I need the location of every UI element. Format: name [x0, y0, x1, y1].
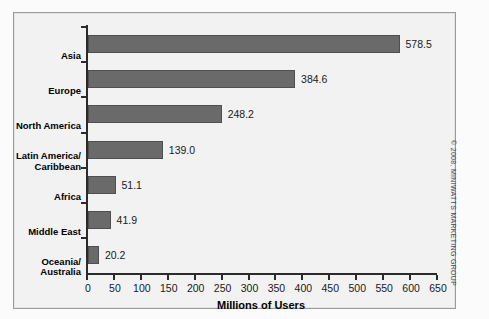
x-axis-tick [140, 275, 142, 280]
category-label-line: North America [16, 121, 81, 132]
category-label: Europe [48, 86, 81, 97]
x-axis-line [86, 273, 437, 275]
y-axis-tick [81, 26, 86, 28]
bar-value-label: 41.9 [117, 211, 137, 229]
x-axis-tick [248, 275, 250, 280]
screenshot-root: AsiaEuropeNorth AmericaLatin America/Car… [0, 0, 489, 319]
bar-latin-america-caribbean [88, 141, 163, 159]
y-axis-tick [81, 237, 86, 239]
category-label-line: Africa [54, 192, 81, 203]
bar-middle-east [88, 211, 111, 229]
copyright-notice: © 2008, MINIWATTS MARKETING GROUP [450, 140, 457, 300]
y-axis-tick [81, 167, 86, 169]
x-axis-tick [221, 275, 223, 280]
x-axis-tick [274, 275, 276, 280]
bar-europe [88, 70, 295, 88]
bar-value-label: 20.2 [105, 246, 125, 264]
x-axis-tick [382, 275, 384, 280]
y-axis-tick [81, 61, 86, 63]
bar-value-label: 384.6 [301, 70, 327, 88]
category-label-line: Asia [61, 51, 81, 62]
bar-value-label: 248.2 [228, 105, 254, 123]
bar-oceania-australia [88, 246, 99, 264]
category-axis-labels: AsiaEuropeNorth AmericaLatin America/Car… [14, 25, 81, 273]
category-label: Oceania/Australia [40, 257, 81, 278]
x-axis-tick [194, 275, 196, 280]
bar-asia [88, 35, 400, 53]
x-axis-tick [436, 275, 438, 280]
bar-africa [88, 176, 116, 194]
chart-frame: AsiaEuropeNorth AmericaLatin America/Car… [13, 12, 456, 309]
x-axis-tick [355, 275, 357, 280]
x-axis-tick [301, 275, 303, 280]
category-label-line: Australia [40, 267, 81, 278]
category-label-line: Middle East [28, 227, 81, 238]
plot-area: 578.5384.6248.2139.051.141.920.2 0501001… [86, 25, 436, 273]
category-label-line: Caribbean [16, 162, 81, 173]
bar-value-label: 578.5 [406, 35, 432, 53]
bar-value-label: 139.0 [169, 141, 195, 159]
x-axis-tick [328, 275, 330, 280]
category-label: Middle East [28, 227, 81, 238]
category-label: Asia [61, 51, 81, 62]
category-label-line: Europe [48, 86, 81, 97]
category-label: Latin America/Caribbean [16, 151, 81, 172]
y-axis-tick [81, 96, 86, 98]
bar-north-america [88, 105, 222, 123]
y-axis-tick [81, 202, 86, 204]
x-axis-tick [167, 275, 169, 280]
x-axis-tick [409, 275, 411, 280]
x-axis-tick [113, 275, 115, 280]
category-label: North America [16, 121, 81, 132]
x-axis-tick [86, 275, 88, 280]
category-label: Africa [54, 192, 81, 203]
bar-value-label: 51.1 [122, 176, 142, 194]
x-axis-title: Millions of Users [86, 299, 436, 311]
y-axis-tick [81, 132, 86, 134]
